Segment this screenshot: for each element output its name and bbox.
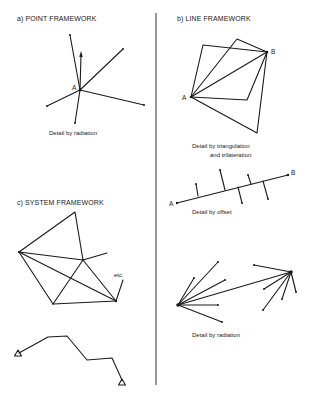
triangle-station-icon: [15, 350, 22, 356]
panel-b-title: b) LINE FRAMEWORK: [177, 15, 251, 23]
panel-line-framework: b) LINE FRAMEWORK A B Detail by triangul…: [169, 15, 297, 338]
radiation-lines: [46, 34, 145, 124]
caption-triangulation-line2: and trilateration: [210, 152, 251, 158]
caption-offset: Detail by offset: [192, 209, 232, 215]
panel-a-title: a) POINT FRAMEWORK: [17, 15, 97, 23]
triangulation-network: [18, 212, 123, 304]
caption-triangulation-line1: Detail by triangulation: [192, 143, 250, 149]
panel-system-framework: c) SYSTEM FRAMEWORK etc.: [15, 199, 126, 385]
panel-point-framework: a) POINT FRAMEWORK A Detail by radiation: [17, 15, 145, 136]
framework-diagram: a) POINT FRAMEWORK A Detail by radiation…: [0, 0, 311, 403]
panel-c-title: c) SYSTEM FRAMEWORK: [17, 199, 104, 207]
offset-point-b: B: [291, 169, 295, 176]
triangulation-point-a: A: [182, 94, 187, 101]
point-a-label: A: [72, 84, 77, 91]
triangulation-point-b: B: [271, 48, 275, 55]
triangulation-figure: [190, 39, 269, 133]
offset-point-a: A: [169, 200, 174, 207]
etc-label: etc.: [114, 272, 124, 278]
arrow-north-icon: [79, 51, 82, 57]
triangle-station-icon: [119, 379, 126, 385]
offset-figure: [176, 169, 289, 204]
caption-radiation: Detail by radiation: [192, 332, 240, 338]
traverse-line: [15, 336, 126, 385]
panel-a-caption: Detail by radiation: [49, 130, 97, 136]
radiation-figure: [176, 261, 297, 323]
